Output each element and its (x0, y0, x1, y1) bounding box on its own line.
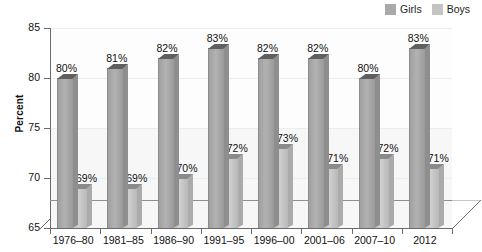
legend-swatch-girls-icon (385, 4, 396, 15)
y-axis-tick-label: 80 (16, 71, 40, 83)
bar-front-face (409, 48, 425, 228)
legend-swatch-boys-icon (432, 4, 443, 15)
y-axis-tick (44, 28, 51, 29)
x-axis-tick-label: 2012 (400, 234, 450, 246)
y-axis-tick-label: 85 (16, 21, 40, 33)
bar-value-label-girls: 80% (52, 62, 81, 74)
bar-girls (208, 48, 223, 228)
y-axis-tick-label: 75 (16, 121, 40, 133)
bar-value-label-girls: 83% (404, 32, 433, 44)
bar-value-label-girls: 80% (354, 62, 383, 74)
bar-value-label-girls: 83% (203, 32, 232, 44)
legend-label-boys: Boys (447, 4, 470, 15)
bar-girls (359, 78, 374, 228)
x-axis-tick-label: 2001–06 (299, 234, 349, 246)
y-axis-tick (44, 128, 51, 129)
y-axis-tick-label: 70 (16, 171, 40, 183)
x-axis-tick-label: 1981–85 (98, 234, 148, 246)
y-axis-tick (44, 178, 51, 179)
bar-front-face (107, 68, 123, 228)
y-axis-tick-label: 65 (16, 221, 40, 233)
bar-front-face (359, 78, 375, 228)
bar-front-face (208, 48, 224, 228)
bar-front-face (258, 58, 274, 228)
legend-label-girls: Girls (400, 4, 422, 15)
chart-container: Girls Boys Percent 6570758085 69%80%69%8… (0, 0, 482, 252)
gridline (50, 28, 452, 29)
bar-girls (258, 58, 273, 228)
x-axis-tick (452, 228, 453, 234)
bar-girls (158, 58, 173, 228)
x-axis-tick-label: 2007–10 (350, 234, 400, 246)
legend-item-boys: Boys (432, 4, 470, 15)
y-axis-label: Percent (14, 79, 25, 149)
bar-value-label-girls: 82% (303, 42, 332, 54)
floor-right-edge-icon (452, 200, 482, 229)
bar-girls (57, 78, 72, 228)
bar-girls (308, 58, 323, 228)
bar-value-label-girls: 82% (153, 42, 182, 54)
x-axis-tick-label: 1991–95 (199, 234, 249, 246)
bar-value-label-girls: 82% (253, 42, 282, 54)
bar-front-face (158, 58, 174, 228)
x-axis-tick-label: 1986–90 (149, 234, 199, 246)
chart-legend: Girls Boys (385, 4, 470, 15)
legend-item-girls: Girls (385, 4, 422, 15)
x-axis-tick-label: 1976–80 (48, 234, 98, 246)
bar-front-face (57, 78, 73, 228)
bar-front-face (308, 58, 324, 228)
bar-value-label-girls: 81% (102, 52, 131, 64)
y-axis-tick (44, 78, 51, 79)
bar-girls (409, 48, 424, 228)
x-axis-tick-label: 1996–00 (249, 234, 299, 246)
bar-girls (107, 68, 122, 228)
